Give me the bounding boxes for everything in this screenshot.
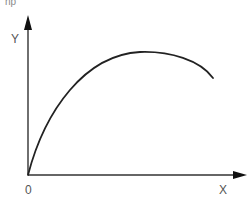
origin-label: 0 (25, 184, 32, 196)
line-chart (0, 0, 250, 199)
y-axis-arrow-icon (24, 15, 32, 30)
y-axis-label: Y (11, 33, 19, 45)
x-axis-arrow-icon (233, 171, 247, 179)
data-curve (28, 52, 213, 175)
x-axis-label: X (219, 184, 227, 196)
